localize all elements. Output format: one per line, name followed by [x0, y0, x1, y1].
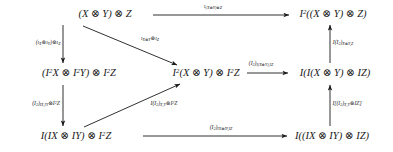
edge-label-right-vertical-lower: I[(I2)X,Y⊗IZ] — [332, 101, 361, 107]
node-mid-right: I(I(X ⊗ Y) ⊗ IZ) — [300, 68, 371, 79]
edge-label-left-vertical-upper: (ιX⊗ιY)⊗ιZ — [36, 40, 61, 46]
edge-label-bottom-horizontal: (I2)IX⊗IY,IZ — [210, 125, 233, 131]
node-mid-left: (I2X ⊗ I2Y) ⊗ I2Z — [42, 68, 116, 79]
node-top-right: I2((X ⊗ Y) ⊗ Z) — [299, 9, 366, 20]
edge-label-diagonal-upper: ιX⊗Y⊗ιZ — [141, 36, 159, 42]
node-mid-center: I2(X ⊗ Y) ⊗ I2Z — [173, 68, 240, 79]
commutative-diagram: (X ⊗ Y) ⊗ Z I2((X ⊗ Y) ⊗ Z) (I2X ⊗ I2Y) … — [0, 0, 393, 152]
edge-diagonal-upper — [83, 26, 177, 65]
node-bottom-right: I((IX ⊗ IY) ⊗ IZ) — [295, 131, 369, 142]
edge-label-left-vertical-lower: (I2)IX,IY⊗I2Z — [32, 101, 60, 108]
edge-label-right-vertical-upper: I(I2)X⊗Y,Z — [333, 40, 353, 46]
edge-label-top-horizontal: ι(X⊗Y)⊗Z — [204, 4, 222, 10]
edge-label-mid-horizontal: (I2)I(X⊗Y),IZ — [249, 61, 273, 67]
edge-label-diagonal-lower: I(I2)X,Y⊗I2Z — [151, 101, 178, 108]
node-top-left: (X ⊗ Y) ⊗ Z — [78, 9, 131, 20]
node-bottom-left: I(IX ⊗ IY) ⊗ I2Z — [41, 131, 112, 142]
